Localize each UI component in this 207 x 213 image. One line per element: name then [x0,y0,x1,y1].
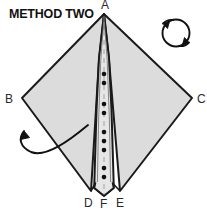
vertex-label-d: D [84,196,93,210]
vertex-label-b: B [5,92,13,106]
vertex-label-a: A [101,0,109,12]
figure-title: METHOD TWO [9,7,94,21]
diagram-canvas [0,0,207,213]
flip-over-arrow-icon [163,20,190,47]
origami-figure: METHOD TWO [0,0,207,213]
vertex-label-c: C [197,92,206,106]
vertex-label-e: E [116,196,124,210]
left-wing-panel [22,14,104,191]
vertex-label-f: F [100,197,107,211]
right-wing-panel [104,14,192,191]
